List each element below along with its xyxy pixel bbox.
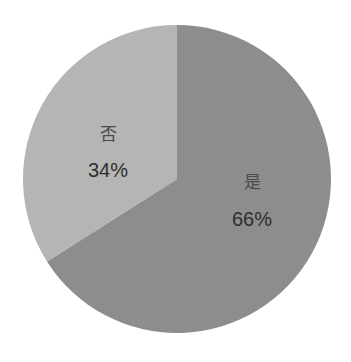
pie-chart: 是 66% 否 34% [0, 0, 351, 362]
slice-percent-yes: 66% [232, 208, 272, 230]
slice-name-no: 否 [100, 124, 117, 144]
slice-name-yes: 是 [244, 172, 261, 192]
slice-percent-no: 34% [88, 159, 128, 181]
pie-slices [23, 25, 331, 333]
